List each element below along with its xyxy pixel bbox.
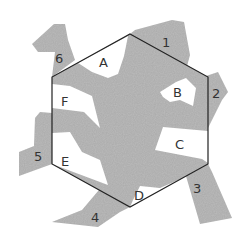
- lizard-leg-5: [19, 112, 52, 176]
- label-3: 3: [193, 181, 201, 196]
- label-2: 2: [212, 86, 220, 101]
- label-4: 4: [91, 210, 99, 225]
- label-e: E: [61, 154, 69, 169]
- label-1: 1: [162, 35, 170, 50]
- diagram-canvas: A B C D E F 1 2 3 4 5 6: [0, 0, 246, 240]
- label-f: F: [61, 94, 68, 109]
- label-a: A: [99, 55, 108, 70]
- lizard-hexagon-diagram: A B C D E F 1 2 3 4 5 6: [0, 0, 246, 240]
- label-6: 6: [55, 51, 63, 66]
- label-5: 5: [34, 149, 42, 164]
- label-b: B: [173, 85, 182, 100]
- label-d: D: [134, 188, 144, 203]
- label-c: C: [175, 137, 184, 152]
